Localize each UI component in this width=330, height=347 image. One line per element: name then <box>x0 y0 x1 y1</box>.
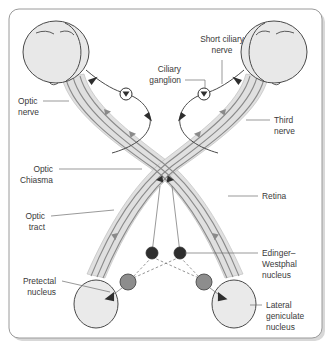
left-edinger-westphal-node <box>146 247 158 259</box>
right-relay-node <box>196 274 212 290</box>
label-ciliary-ganglion-line1: Ciliary <box>158 64 182 74</box>
pupillary-reflex-diagram: Optic nerve Optic Chiasma Optic tract Pr… <box>0 0 330 347</box>
label-retina: Retina <box>262 191 287 201</box>
right-lateral-geniculate-nucleus <box>212 280 256 328</box>
label-short-ciliary-line1: Short ciliary <box>200 34 245 44</box>
label-lateral-geniculate-line2: geniculate <box>266 311 305 321</box>
label-lateral-geniculate-line3: nucleus <box>266 322 295 332</box>
label-edinger-westphal-line3: nucleus <box>262 270 291 280</box>
label-optic-nerve-line1: Optic <box>18 96 38 106</box>
label-short-ciliary-line2: nerve <box>212 45 233 55</box>
label-optic-chiasma-line2: Chiasma <box>20 175 53 185</box>
left-pretectal-nucleus <box>74 280 118 328</box>
label-optic-chiasma-line1: Optic <box>33 164 53 174</box>
label-optic-tract-line1: Optic <box>25 211 45 221</box>
label-third-nerve-line1: Third <box>274 115 293 125</box>
label-pretectal-line1: Pretectal <box>23 276 56 286</box>
label-optic-nerve-line2: nerve <box>18 107 39 117</box>
label-third-nerve-line2: nerve <box>274 126 295 136</box>
label-pretectal-line2: nucleus <box>27 287 56 297</box>
right-edinger-westphal-node <box>174 247 186 259</box>
label-edinger-westphal-line1: Edinger– <box>262 248 296 258</box>
label-optic-tract-line2: tract <box>29 222 46 232</box>
label-ciliary-ganglion-line2: ganglion <box>149 75 181 85</box>
label-edinger-westphal-line2: Westphal <box>262 259 297 269</box>
label-lateral-geniculate-line1: Lateral <box>266 300 292 310</box>
left-relay-node <box>120 274 136 290</box>
